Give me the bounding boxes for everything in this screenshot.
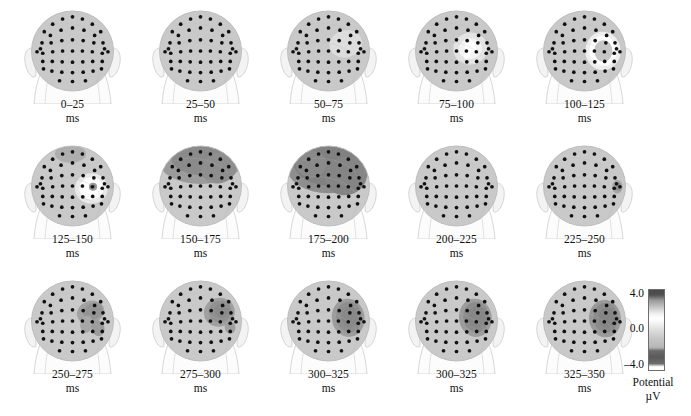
electrode-marker: [605, 169, 609, 173]
electrode-marker: [583, 341, 587, 345]
electrode-marker: [474, 22, 478, 26]
panel-caption: 300–325ms: [394, 367, 519, 395]
electrode-marker: [49, 304, 53, 308]
electrode-marker: [61, 287, 65, 291]
electrode-marker: [444, 205, 448, 209]
electrode-marker: [199, 26, 203, 30]
electrode-marker: [218, 157, 222, 161]
electrode-marker: [487, 317, 491, 321]
electrode-marker: [337, 319, 341, 323]
electrode-marker: [570, 214, 574, 218]
electrode-marker: [93, 304, 97, 308]
electrode-marker: [602, 185, 606, 189]
electrode-marker: [316, 60, 320, 64]
electrode-marker: [483, 30, 487, 34]
electrode-marker: [327, 26, 331, 30]
electrode-marker: [338, 298, 342, 302]
electrode-marker: [81, 319, 85, 323]
electrode-marker: [337, 195, 341, 199]
electrode-marker: [60, 330, 64, 334]
electrode-marker: [443, 163, 447, 167]
electrode-marker: [484, 195, 488, 199]
electrode-marker: [179, 292, 183, 296]
electrode-marker: [168, 41, 172, 45]
electrode-marker: [306, 69, 310, 73]
electrode-marker: [359, 317, 363, 321]
electrode-marker: [106, 185, 110, 189]
electrode-marker: [346, 157, 350, 161]
electrode-marker: [583, 15, 587, 19]
electrode-marker: [424, 41, 428, 45]
electrode-marker: [186, 79, 190, 83]
panel-caption: 200–225ms: [394, 232, 519, 260]
topoplot-panel: 275–300ms: [138, 274, 263, 409]
electrode-marker: [425, 51, 429, 55]
electrode-marker: [317, 319, 321, 323]
electrode-marker: [41, 330, 45, 334]
electrode-marker: [228, 67, 232, 71]
panel-caption: 300–325ms: [266, 367, 391, 395]
electrode-marker: [177, 304, 181, 308]
electrode-marker: [91, 60, 95, 64]
colorbar-tick-mid: 0.0: [610, 322, 644, 334]
electrode-marker: [327, 173, 331, 177]
electrode-marker: [71, 38, 75, 42]
electrode-marker: [100, 202, 104, 206]
electrode-marker: [71, 285, 75, 289]
topoplot-panel: 300–325ms: [394, 274, 519, 409]
electrode-marker: [553, 186, 557, 190]
electrode-marker: [228, 321, 232, 325]
electrode-marker: [188, 309, 192, 313]
panel-caption: 150–175ms: [138, 232, 263, 260]
electrode-marker: [90, 292, 94, 296]
electrode-marker: [593, 39, 597, 43]
electrode-marker: [484, 321, 488, 325]
electrode-marker: [71, 15, 75, 19]
electrode-marker: [99, 30, 103, 34]
electrode-marker: [552, 311, 556, 315]
electrode-marker: [602, 320, 606, 324]
electrode-marker: [455, 341, 459, 345]
electrode-marker: [484, 337, 488, 341]
electrode-marker: [435, 292, 439, 296]
electrode-marker: [327, 308, 331, 312]
electrode-marker: [199, 330, 203, 334]
electrode-marker: [220, 311, 224, 315]
electrode-marker: [291, 320, 295, 324]
electrode-marker: [168, 311, 172, 315]
electrode-marker: [212, 349, 216, 353]
electrode-marker: [91, 339, 95, 343]
electrode-marker: [465, 60, 469, 64]
time-window-label: 300–325: [266, 367, 391, 381]
electrode-marker: [41, 60, 45, 64]
electrode-marker: [90, 50, 94, 54]
electrode-marker: [61, 49, 65, 53]
electrode-marker: [468, 349, 472, 353]
electrode-marker: [359, 47, 363, 51]
electrode-marker: [465, 205, 469, 209]
electrode-marker: [103, 182, 107, 186]
electrode-marker: [485, 311, 489, 315]
electrode-marker: [100, 67, 104, 71]
electrode-marker: [455, 195, 459, 199]
electrode-marker: [199, 308, 203, 312]
electrode-marker: [346, 292, 350, 296]
electrode-marker: [618, 50, 622, 54]
time-unit-label: ms: [138, 111, 263, 125]
electrode-marker: [573, 319, 577, 323]
electrode-marker: [40, 176, 44, 180]
electrode-marker: [611, 165, 615, 169]
electrode-marker: [209, 70, 213, 74]
electrode-marker: [35, 185, 39, 189]
electrode-marker: [100, 330, 104, 334]
electrode-marker: [298, 202, 302, 206]
electrode-marker: [298, 67, 302, 71]
time-window-label: 150–175: [138, 232, 263, 246]
electrode-marker: [91, 204, 95, 208]
electrode-marker: [612, 202, 616, 206]
electrode-marker: [594, 163, 598, 167]
electrode-marker: [221, 34, 225, 38]
electrode-marker: [169, 195, 173, 199]
electrode-marker: [209, 39, 213, 43]
electrode-marker: [188, 205, 192, 209]
